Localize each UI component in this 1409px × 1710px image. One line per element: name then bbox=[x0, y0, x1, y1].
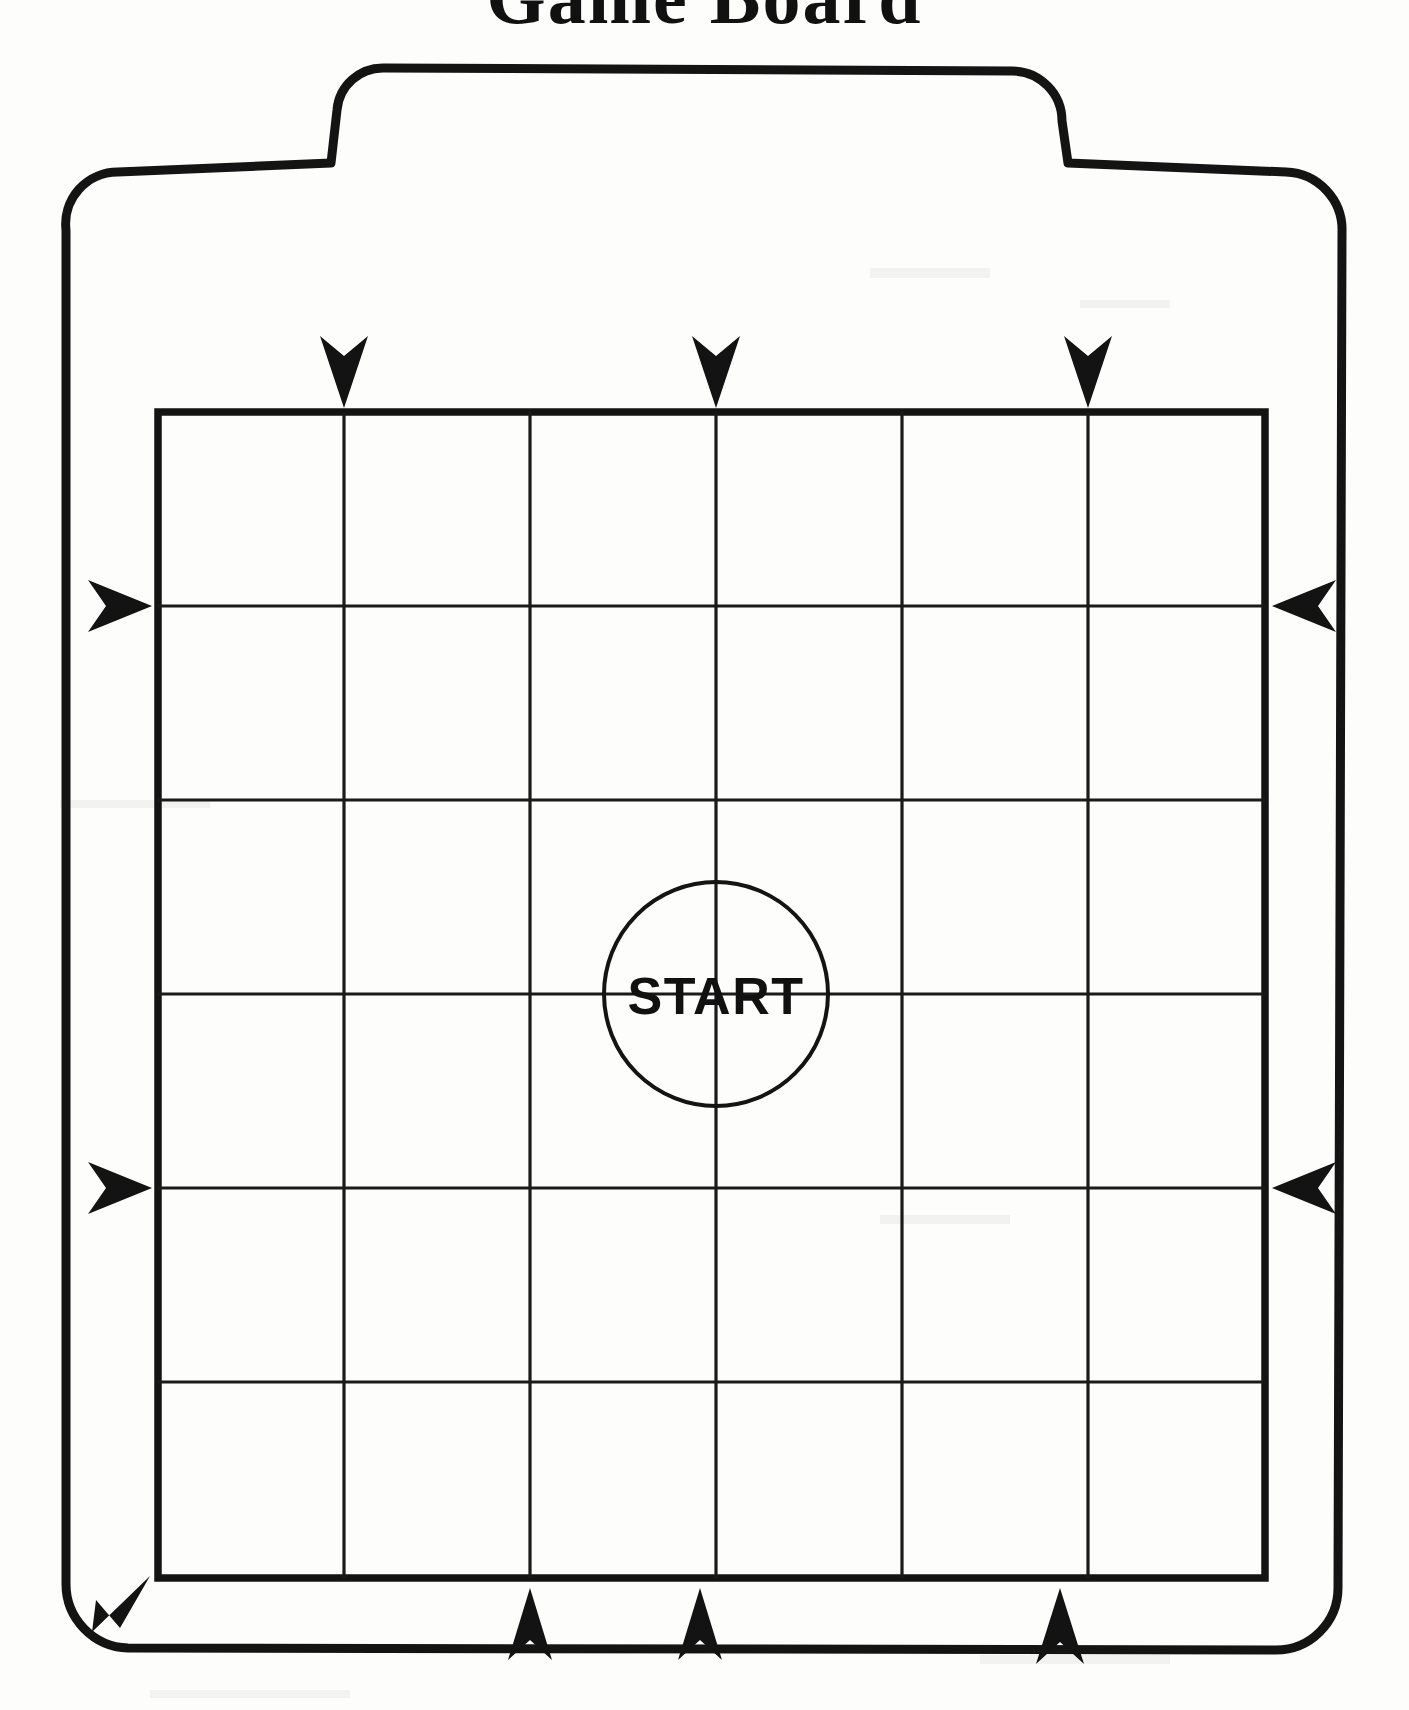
corner-arrows bbox=[92, 1576, 150, 1632]
arrow-left-row5[interactable] bbox=[1272, 1162, 1336, 1214]
arrow-right-row5[interactable] bbox=[88, 1162, 152, 1214]
left-arrows bbox=[88, 580, 152, 1214]
top-arrows bbox=[320, 336, 1112, 408]
arrow-down-col6[interactable] bbox=[1064, 336, 1112, 408]
arrow-right-row2[interactable] bbox=[88, 580, 152, 632]
start-label: START bbox=[628, 967, 805, 1025]
arrow-diagonal-bottom-left[interactable] bbox=[92, 1576, 150, 1632]
game-board-outline bbox=[66, 68, 1342, 1650]
arrow-down-col4[interactable] bbox=[692, 336, 740, 408]
arrow-down-col2[interactable] bbox=[320, 336, 368, 408]
arrow-left-row2[interactable] bbox=[1272, 580, 1336, 632]
right-arrows bbox=[1272, 580, 1336, 1214]
board-page: Game Board bbox=[0, 0, 1409, 1710]
